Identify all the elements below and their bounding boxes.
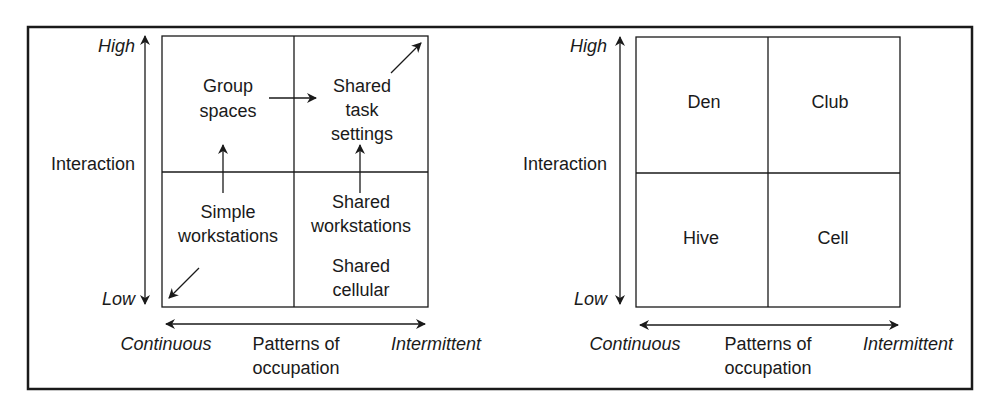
quadrant-group-spaces-line1: Group bbox=[203, 74, 253, 98]
right-x-axis-title-line2: occupation bbox=[724, 356, 811, 380]
left-x-axis-title-line1: Patterns of bbox=[252, 332, 339, 356]
quadrant-shared-cellular-line2: cellular bbox=[332, 278, 389, 302]
quadrant-den: Den bbox=[687, 90, 720, 114]
right-y-axis-title: Interaction bbox=[523, 152, 607, 176]
quadrant-group-spaces-line2: spaces bbox=[199, 99, 256, 123]
left-x-continuous-label: Continuous bbox=[120, 332, 211, 356]
left-x-intermittent-label: Intermittent bbox=[391, 332, 481, 356]
figure: High Interaction Low Group spaces Shared… bbox=[0, 0, 994, 409]
right-y-high-label: High bbox=[570, 34, 607, 58]
quadrant-club: Club bbox=[811, 90, 848, 114]
right-x-axis-title-line1: Patterns of bbox=[724, 332, 811, 356]
right-x-intermittent-label: Intermittent bbox=[863, 332, 953, 356]
quadrant-shared-task-line1: Shared bbox=[333, 74, 391, 98]
left-x-axis-title-line2: occupation bbox=[252, 356, 339, 380]
right-quadrant-grid bbox=[636, 37, 900, 307]
quadrant-shared-workstations-line1: Shared bbox=[332, 190, 390, 214]
left-y-high-label: High bbox=[98, 34, 135, 58]
quadrant-shared-task-line3: settings bbox=[331, 122, 393, 146]
quadrant-simple-workstations-line2: workstations bbox=[178, 224, 278, 248]
right-x-continuous-label: Continuous bbox=[589, 332, 680, 356]
left-y-low-label: Low bbox=[102, 287, 135, 311]
quadrant-hive: Hive bbox=[683, 226, 719, 250]
quadrant-simple-workstations-line1: Simple bbox=[200, 200, 255, 224]
quadrant-shared-cellular-line1: Shared bbox=[332, 254, 390, 278]
quadrant-shared-task-line2: task bbox=[345, 98, 378, 122]
right-y-low-label: Low bbox=[574, 287, 607, 311]
quadrant-cell: Cell bbox=[817, 226, 848, 250]
quadrant-shared-workstations-line2: workstations bbox=[311, 214, 411, 238]
left-y-axis-title: Interaction bbox=[51, 152, 135, 176]
